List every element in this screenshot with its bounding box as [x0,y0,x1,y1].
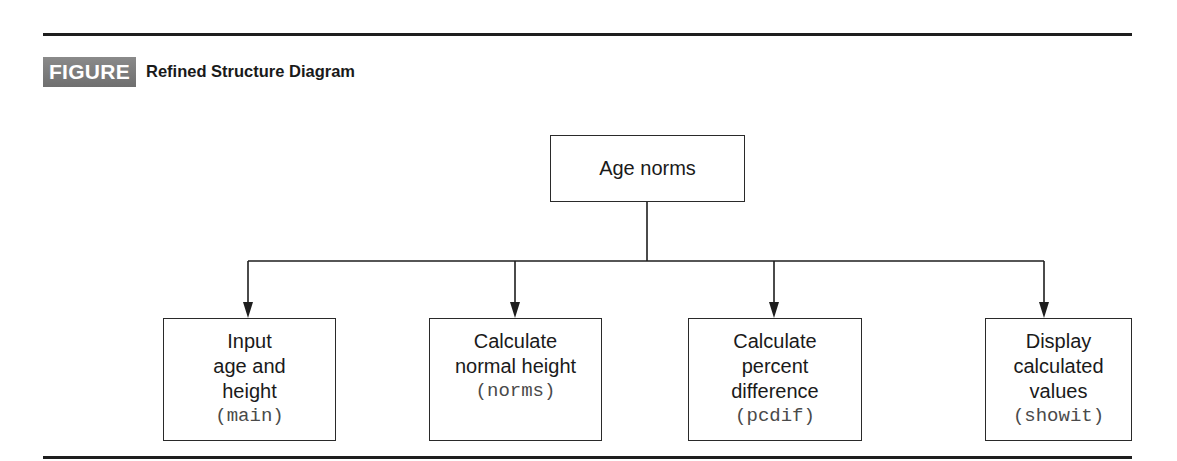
module-label-line: Input [227,329,271,354]
module-function-name: (main) [215,404,283,428]
bottom-rule [43,456,1132,459]
module-input-age-height: Input age and height (main) [163,318,336,441]
module-function-name: (pcdif) [735,404,815,428]
module-calculate-percent-difference: Calculate percent difference (pcdif) [688,318,862,441]
module-label-line: difference [731,379,818,404]
arrowhead-icons [243,302,1049,318]
module-function-name: (showit) [1013,404,1104,428]
root-module-label: Age norms [599,156,696,181]
module-label-line: values [1030,379,1088,404]
module-label-line: Display [1026,329,1092,354]
module-label-line: height [222,379,277,404]
module-label-line: percent [742,354,809,379]
module-label-line: Calculate [733,329,816,354]
module-calculate-normal-height: Calculate normal height (norms) [429,318,602,441]
module-display-calculated-values: Display calculated values (showit) [985,318,1132,441]
trunk-line [248,202,1044,261]
module-label-line: calculated [1013,354,1103,379]
module-function-name: (norms) [476,379,556,403]
root-module-age-norms: Age norms [550,135,745,202]
module-label-line: Calculate [474,329,557,354]
module-label-line: normal height [455,354,576,379]
branch-arrows [248,261,1044,304]
module-label-line: age and [213,354,285,379]
